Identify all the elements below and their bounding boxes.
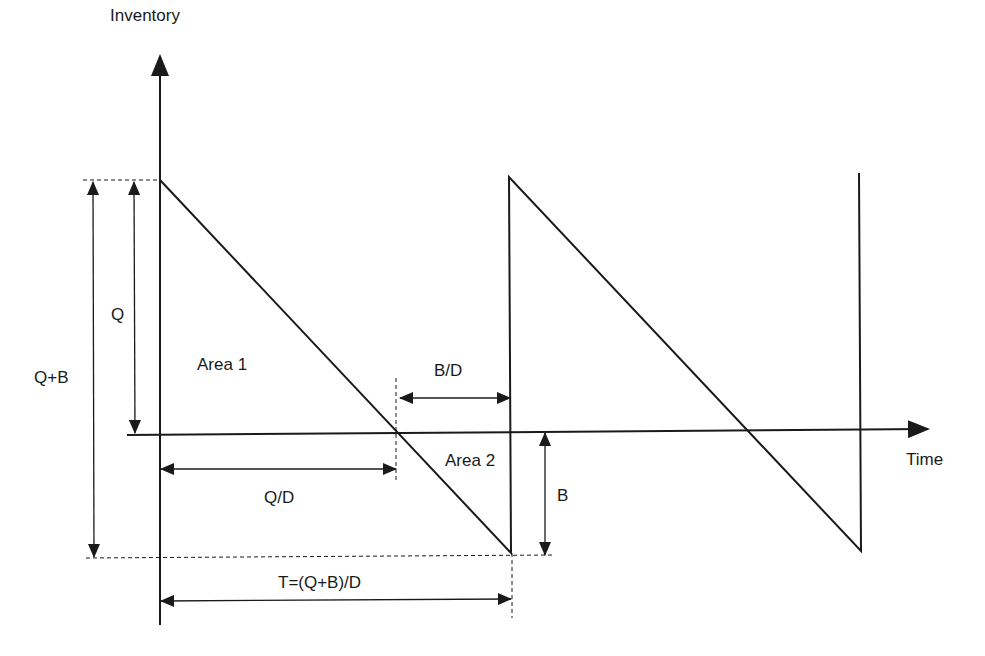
b-over-d-label: B/D bbox=[434, 362, 462, 379]
cycle-time-label: T=(Q+B)/D bbox=[278, 574, 361, 591]
axes bbox=[127, 56, 928, 625]
area-2-label: Area 2 bbox=[445, 452, 495, 469]
q-plus-b-dimension-arrow bbox=[93, 182, 94, 557]
b-label: B bbox=[557, 487, 568, 504]
bottom-dashed-line bbox=[86, 555, 555, 558]
q-dimension-arrow bbox=[134, 182, 135, 433]
inventory-sawtooth-diagram bbox=[0, 0, 985, 656]
q-label: Q bbox=[111, 306, 124, 323]
reference-lines bbox=[83, 180, 555, 618]
x-axis-label: Time bbox=[906, 451, 943, 468]
x-axis bbox=[127, 429, 928, 435]
y-axis-label: Inventory bbox=[110, 7, 180, 24]
q-over-d-label: Q/D bbox=[264, 489, 294, 506]
cycle-time-dimension-arrow bbox=[161, 599, 511, 601]
q-plus-b-label: Q+B bbox=[34, 369, 69, 386]
area-1-label: Area 1 bbox=[197, 356, 247, 373]
